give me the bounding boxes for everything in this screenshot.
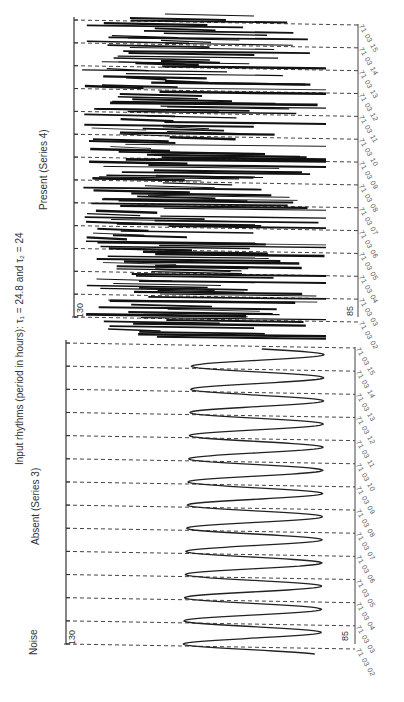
present-noise-trace [120,94,202,96]
present-noise-trace [163,183,232,185]
absent-row-line [66,551,355,556]
present-noise-trace [130,18,226,20]
present-noise-trace [110,326,255,328]
present-noise-trace [169,226,326,228]
absent-row-line [66,528,355,533]
present-noise-trace [83,188,261,190]
present-noise-trace [160,216,326,218]
absent-row-line [66,343,355,348]
present-noise-trace [170,137,236,139]
present-noise-trace [137,196,215,198]
present-noise-trace [85,217,205,219]
present-noise-trace [164,122,326,124]
present-noise-trace [90,149,170,151]
present-noise-trace [165,14,254,16]
present-noise-trace [131,21,287,23]
present-noise-trace [136,276,274,278]
present-noise-trace [92,128,147,130]
present-noise-trace [110,103,318,105]
present-noise-trace [130,48,274,50]
present-noise-trace [108,329,160,331]
present-noise-trace [151,83,310,85]
present-noise-trace [89,162,187,164]
absent-row-line [66,575,355,580]
present-noise-trace [87,237,127,239]
present-noise-trace [134,292,302,294]
present-noise-trace [96,211,157,213]
absent-row-line [66,644,355,649]
present-noise-trace [164,33,267,35]
present-noise-trace [131,305,212,307]
present-noise-trace [87,214,140,216]
present-noise-trace [119,152,244,154]
chart-plot-area [0,0,404,702]
present-noise-trace [121,119,174,121]
present-noise-trace [87,25,243,27]
present-noise-trace [117,224,261,226]
present-noise-trace [113,235,187,237]
present-noise-trace [114,58,210,60]
present-noise-trace [97,109,250,111]
present-noise-trace [104,23,208,25]
present-noise-trace [125,144,326,146]
present-noise-trace [132,99,232,101]
present-noise-trace [94,190,190,192]
present-noise-trace [144,88,326,90]
absent-sine-trace [183,349,324,654]
present-noise-trace [119,201,294,203]
present-noise-trace [110,147,151,149]
absent-row-line [66,598,355,603]
present-noise-trace [143,129,224,131]
present-noise-trace [82,70,227,72]
present-noise-trace [133,324,306,326]
present-noise-trace [148,165,326,167]
present-noise-trace [148,297,326,299]
present-noise-trace [108,256,269,258]
present-noise-trace [121,231,254,233]
present-noise-trace [126,74,283,76]
present-noise-trace [84,125,254,127]
present-noise-trace [155,28,216,30]
present-noise-trace [155,221,319,223]
present-noise-trace [144,31,293,33]
present-noise-trace [129,53,255,55]
present-noise-trace [99,307,277,309]
present-noise-trace [166,320,303,322]
present-noise-trace [118,97,198,99]
present-noise-trace [110,301,296,303]
present-noise-trace [155,254,324,256]
present-noise-trace [109,248,192,250]
present-noise-trace [113,284,221,286]
absent-row-line [66,621,355,626]
present-noise-trace [139,281,326,283]
present-noise-trace [165,43,293,45]
